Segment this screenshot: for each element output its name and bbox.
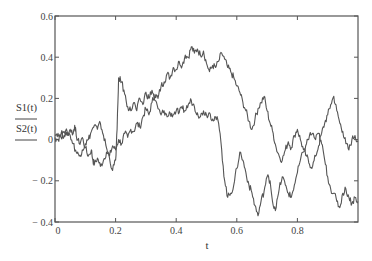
- series-line-2: [55, 77, 358, 216]
- x-tick-label: 0.6: [231, 225, 244, 236]
- series-line-1: [55, 47, 358, 169]
- line-chart: 0.60.40.20− 0.2− 0.4 00.20.40.60.8 S1(t)…: [0, 0, 372, 261]
- x-tick-label: 0.4: [170, 225, 183, 236]
- y-tick-label: − 0.4: [32, 217, 53, 228]
- plot-area: [55, 16, 358, 222]
- x-tick-label: 0: [56, 225, 61, 236]
- y-tick-label: 0.4: [41, 52, 54, 63]
- plot-border: [55, 16, 358, 222]
- series-layer: [55, 47, 358, 216]
- y-tick-label: − 0.2: [32, 175, 53, 186]
- x-tick-label: 0.8: [291, 225, 304, 236]
- x-tick-label: 0.2: [109, 225, 122, 236]
- y-axis: 0.60.40.20− 0.2− 0.4: [32, 11, 358, 228]
- y-tick-label: 0: [48, 134, 53, 145]
- y-tick-label: 0.6: [41, 11, 54, 22]
- legend-label-s2: S2(t): [16, 123, 38, 135]
- x-axis: 00.20.40.60.8: [55, 16, 304, 236]
- legend-label-s1: S1(t): [16, 102, 38, 114]
- legend: S1(t) S2(t): [15, 102, 38, 140]
- y-tick-label: 0.2: [41, 93, 54, 104]
- x-axis-label: t: [205, 239, 208, 251]
